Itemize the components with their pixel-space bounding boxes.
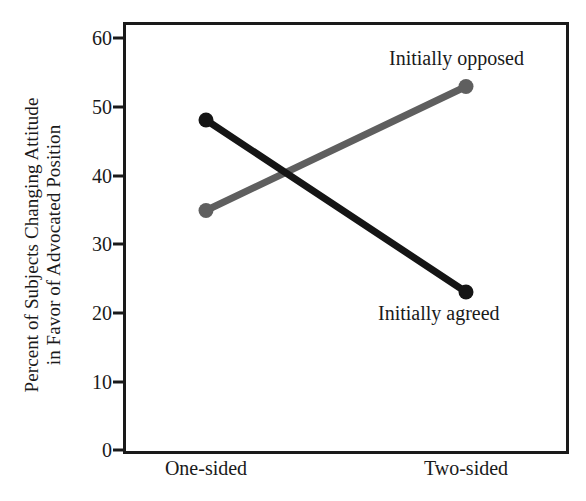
series-annotation-initially-agreed: Initially agreed [378, 303, 500, 323]
line-chart-figure: Percent of Subjects Changing Attitude in… [0, 0, 586, 501]
series-annotation-initially-opposed: Initially opposed [389, 48, 524, 68]
series-initially-opposed [199, 79, 474, 218]
series-initially-agreed [199, 113, 474, 300]
plot-area [0, 0, 586, 501]
data-point-agreed-one-sided [199, 113, 214, 128]
data-point-opposed-one-sided [199, 203, 214, 218]
data-point-opposed-two-sided [459, 79, 474, 94]
data-point-agreed-two-sided [459, 285, 474, 300]
x-tick-label-one-sided: One-sided [165, 458, 247, 478]
x-tick-label-two-sided: Two-sided [424, 458, 508, 478]
plot-frame [125, 24, 568, 453]
